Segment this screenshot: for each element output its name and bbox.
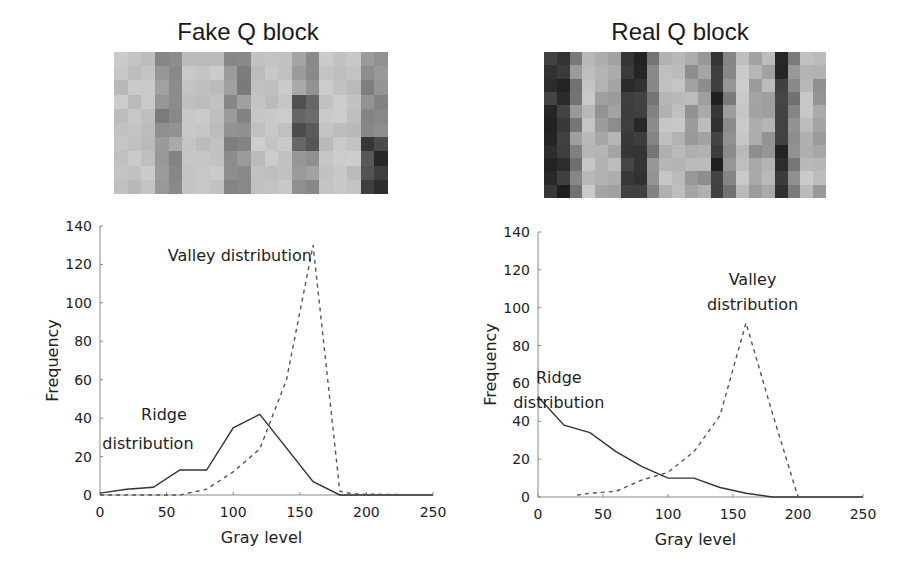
- y-tick-label: 80: [74, 333, 92, 349]
- x-tick-label: 100: [220, 504, 247, 520]
- fake-q-histogram-chart: 020406080100120140050100150200250Gray le…: [0, 0, 903, 571]
- x-tick-label: 200: [353, 504, 380, 520]
- annotation-label: Valley distribution: [168, 246, 312, 265]
- y-tick-label: 120: [65, 256, 92, 272]
- y-tick-label: 140: [65, 218, 92, 234]
- x-tick-label: 0: [96, 504, 105, 520]
- y-tick-label: 0: [83, 487, 92, 503]
- ridge-distribution-line: [100, 414, 433, 495]
- x-tick-label: 250: [420, 504, 447, 520]
- annotation-label: Ridge: [141, 405, 187, 424]
- annotation-label: distribution: [102, 434, 193, 453]
- x-axis-label: Gray level: [221, 528, 302, 547]
- y-tick-label: 100: [65, 295, 92, 311]
- y-tick-label: 40: [74, 410, 92, 426]
- y-tick-label: 60: [74, 372, 92, 388]
- x-tick-label: 50: [158, 504, 176, 520]
- y-axis-label: Frequency: [43, 319, 62, 402]
- x-tick-label: 150: [286, 504, 313, 520]
- y-tick-label: 20: [74, 449, 92, 465]
- valley-distribution-line: [100, 245, 433, 495]
